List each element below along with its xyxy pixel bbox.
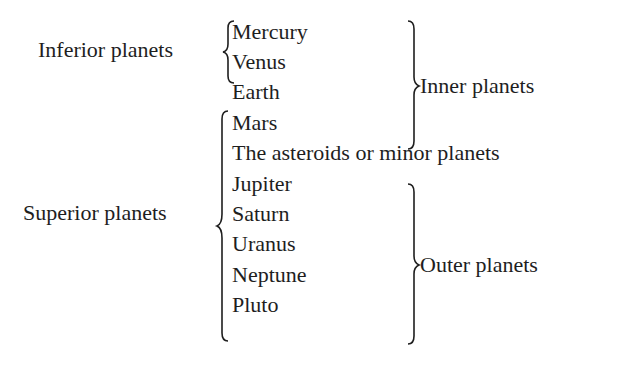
outer-planets-label: Outer planets	[420, 252, 538, 278]
body-asteroids: The asteroids or minor planets	[232, 140, 500, 166]
body-neptune: Neptune	[232, 262, 307, 288]
body-jupiter: Jupiter	[232, 171, 292, 197]
superior-brace-icon	[216, 110, 230, 342]
superior-planets-label: Superior planets	[23, 200, 167, 226]
inferior-planets-label: Inferior planets	[38, 37, 173, 63]
body-mercury: Mercury	[232, 19, 308, 45]
inner-planets-label: Inner planets	[420, 73, 534, 99]
body-venus: Venus	[232, 49, 286, 75]
body-uranus: Uranus	[232, 231, 296, 257]
body-saturn: Saturn	[232, 201, 289, 227]
inner-brace-icon	[407, 20, 421, 150]
body-pluto: Pluto	[232, 292, 278, 318]
body-earth: Earth	[232, 79, 280, 105]
body-mars: Mars	[232, 110, 277, 136]
outer-brace-icon	[407, 183, 421, 345]
